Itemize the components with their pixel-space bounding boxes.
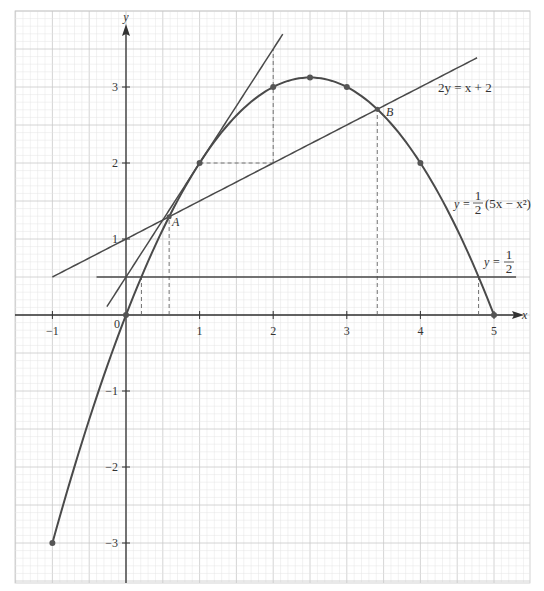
y-tick-label: 2 bbox=[112, 156, 118, 170]
svg-text:1: 1 bbox=[506, 247, 513, 262]
data-point bbox=[123, 312, 129, 318]
x-axis-label: x bbox=[521, 308, 528, 322]
svg-text:y =: y = bbox=[483, 255, 500, 269]
svg-text:2: 2 bbox=[475, 202, 482, 217]
data-point bbox=[49, 540, 55, 546]
half-line-equation-label: y = 1 2 bbox=[483, 247, 514, 276]
y-tick-label: −3 bbox=[105, 536, 118, 550]
intersection-point bbox=[375, 107, 380, 112]
x-tick-label: 3 bbox=[344, 324, 350, 338]
line-equation-label: 2y = x + 2 bbox=[438, 80, 492, 95]
svg-text:y =: y = bbox=[453, 197, 470, 211]
y-tick-label: −2 bbox=[105, 460, 118, 474]
y-axis-label: y bbox=[122, 10, 129, 24]
graph-plot: −112345−3−2−1123 y x 0 2y = x + 2 y = 1 … bbox=[0, 0, 544, 591]
data-point bbox=[197, 160, 203, 166]
data-point bbox=[344, 84, 350, 90]
point-b-label: B bbox=[386, 105, 394, 119]
y-tick-label: −1 bbox=[105, 384, 118, 398]
x-tick-label: −1 bbox=[46, 324, 59, 338]
x-tick-label: 4 bbox=[417, 324, 423, 338]
x-tick-label: 1 bbox=[197, 324, 203, 338]
axes bbox=[15, 24, 524, 583]
data-point bbox=[270, 84, 276, 90]
intersection-point bbox=[167, 214, 172, 219]
origin-label: 0 bbox=[114, 317, 120, 331]
grid bbox=[15, 11, 530, 583]
x-tick-label: 2 bbox=[270, 324, 276, 338]
svg-text:1: 1 bbox=[475, 188, 482, 203]
data-point bbox=[307, 75, 313, 81]
point-a-label: A bbox=[171, 215, 180, 229]
data-point bbox=[417, 160, 423, 166]
x-tick-label: 5 bbox=[491, 324, 497, 338]
svg-text:(5x − x²): (5x − x²) bbox=[485, 196, 531, 211]
y-tick-label: 3 bbox=[112, 80, 118, 94]
svg-text:2: 2 bbox=[506, 261, 513, 276]
data-point bbox=[491, 312, 497, 318]
